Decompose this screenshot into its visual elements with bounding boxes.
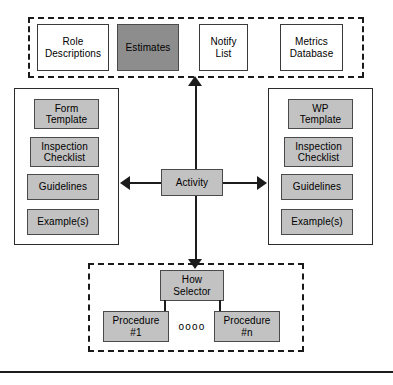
activity-to-right-arrowhead (257, 176, 267, 190)
diagram-canvas: Role Descriptions Estimates Notify List … (0, 0, 393, 385)
node-right-guidelines[interactable]: Guidelines (281, 174, 353, 200)
activity-to-right-line (222, 182, 262, 184)
node-form-template[interactable]: Form Template (34, 99, 99, 129)
node-estimates[interactable]: Estimates (117, 24, 179, 71)
procedure-ellipsis-label: oooo (172, 321, 212, 332)
node-right-examples[interactable]: Example(s) (281, 209, 353, 235)
node-wp-template[interactable]: WP Template (288, 99, 353, 129)
activity-to-bottom-line (195, 196, 197, 260)
node-left-guidelines[interactable]: Guidelines (27, 174, 99, 200)
node-left-examples[interactable]: Example(s) (27, 209, 99, 235)
activity-node[interactable]: Activity (161, 169, 223, 196)
activity-to-top-arrowhead (188, 76, 202, 86)
activity-to-left-arrowhead (120, 176, 130, 190)
node-notify-list[interactable]: Notify List (199, 24, 248, 71)
footer-divider (0, 371, 393, 373)
node-procedure-n[interactable]: Procedure #n (214, 311, 280, 342)
node-procedure-1[interactable]: Procedure #1 (103, 311, 169, 342)
node-role-descriptions[interactable]: Role Descriptions (37, 24, 109, 71)
node-how-selector[interactable]: How Selector (160, 270, 224, 301)
activity-to-top-line (195, 86, 197, 172)
node-right-inspection-checklist[interactable]: Inspection Checklist (284, 137, 353, 167)
node-left-inspection-checklist[interactable]: Inspection Checklist (30, 137, 99, 167)
node-metrics-database[interactable]: Metrics Database (280, 24, 343, 71)
